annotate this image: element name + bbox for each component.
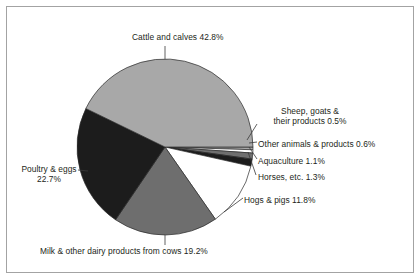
slice-label-milk-text: Milk & other dairy products from cows 19…	[40, 246, 208, 256]
slice-label-cattle: Cattle and calves 42.8%	[132, 32, 223, 42]
pie-chart-figure: Cattle and calves 42.8% Sheep, goats & t…	[0, 0, 420, 279]
slice-label-sheep-line2: their products 0.5%	[273, 116, 346, 126]
slice-label-horses: Horses, etc. 1.3%	[258, 172, 325, 182]
slice-label-horses-text: Horses, etc. 1.3%	[258, 172, 325, 182]
slice-label-poultry-line2: 22.7%	[37, 174, 61, 184]
slice-label-hogs-text: Hogs & pigs 11.8%	[244, 195, 315, 205]
slice-label-hogs: Hogs & pigs 11.8%	[244, 195, 315, 205]
slice-label-other-animals: Other animals & products 0.6%	[258, 139, 375, 149]
slice-label-cattle-text: Cattle and calves 42.8%	[132, 32, 223, 42]
slice-label-sheep-line1: Sheep, goats &	[281, 106, 339, 116]
slice-label-aquaculture: Aquaculture 1.1%	[258, 156, 325, 166]
slice-label-poultry-line1: Poultry & eggs	[21, 164, 76, 174]
slice-label-aquaculture-text: Aquaculture 1.1%	[258, 156, 325, 166]
pie-slices-group	[77, 59, 253, 235]
slice-label-poultry: Poultry & eggs 22.7%	[6, 164, 92, 184]
slice-label-milk: Milk & other dairy products from cows 19…	[40, 246, 208, 256]
slice-label-other-animals-text: Other animals & products 0.6%	[258, 139, 375, 149]
slice-label-sheep: Sheep, goats & their products 0.5%	[262, 106, 358, 126]
